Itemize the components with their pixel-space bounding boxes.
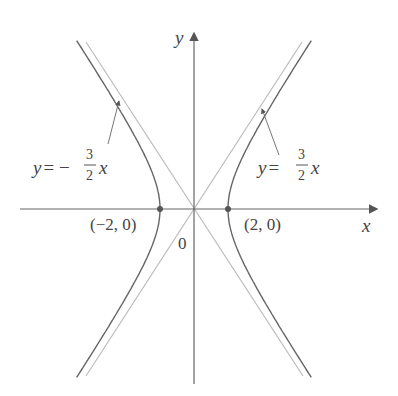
svg-text:3: 3 [86, 147, 93, 162]
leader-left [108, 101, 119, 144]
vertex-right-label: (2, 0) [244, 215, 281, 234]
vertex-left-point [157, 206, 163, 212]
asymptote-right-label: y= 3 2 x [256, 147, 320, 183]
hyperbola-diagram: y x 0 (−2, 0) (2, 0) y= − 3 2 x y= 3 2 x [0, 0, 398, 396]
svg-text:x: x [98, 157, 108, 178]
origin-label: 0 [178, 234, 187, 253]
svg-text:2: 2 [86, 168, 93, 183]
y-axis-label: y [173, 27, 184, 48]
asymptote-left-label: y= − 3 2 x [31, 147, 108, 183]
leader-right [262, 109, 279, 155]
vertex-left-label: (−2, 0) [90, 215, 136, 234]
svg-text:y= −: y= − [31, 157, 70, 178]
svg-text:2: 2 [298, 168, 305, 183]
x-axis-label: x [361, 215, 371, 236]
svg-text:y=: y= [256, 157, 279, 178]
svg-text:3: 3 [298, 147, 305, 162]
svg-text:x: x [310, 157, 320, 178]
vertex-right-point [225, 206, 231, 212]
